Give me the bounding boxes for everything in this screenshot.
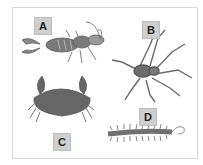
- label-d: D: [139, 108, 157, 126]
- label-a: A: [34, 17, 52, 35]
- label-c: C: [53, 133, 71, 151]
- centipede-image: [108, 124, 184, 142]
- arthropod-illustrations: [0, 0, 203, 165]
- spider-image: [112, 30, 192, 102]
- crab-image: [28, 76, 94, 122]
- label-b: B: [142, 21, 160, 39]
